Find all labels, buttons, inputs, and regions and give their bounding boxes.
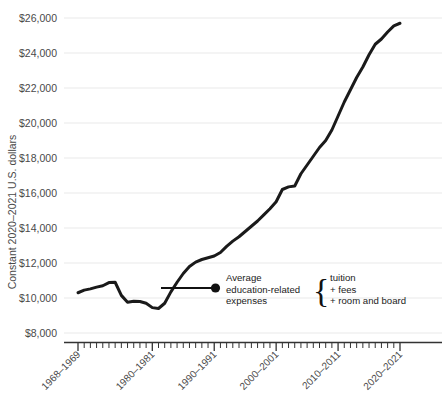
annotation-brace: { [313, 272, 329, 309]
x-axis-tick-label: 2010–2011 [300, 348, 343, 391]
annotation-component-tuition: tuition [330, 272, 356, 283]
expenses-line-series [78, 23, 400, 308]
x-axis-tick-label: 1980–1981 [114, 348, 157, 391]
y-axis-tick-label: $10,000 [19, 292, 57, 304]
annotation-component-fees: + fees [330, 284, 357, 295]
y-axis-tick-label: $22,000 [19, 82, 57, 94]
y-axis-tick-label: $16,000 [19, 187, 57, 199]
y-axis-tick-label: $12,000 [19, 257, 57, 269]
annotation-label-line1: Average [226, 272, 262, 283]
y-axis-title: Constant 2020–2021 U.S. dollars [6, 135, 18, 290]
y-axis-tick-label: $14,000 [19, 222, 57, 234]
x-axis-tick-label: 1990–1991 [175, 348, 218, 391]
y-axis-tick-label: $24,000 [19, 47, 57, 59]
y-axis-tick-label: $8,000 [25, 327, 57, 339]
annotation-marker-dot [211, 283, 220, 292]
x-axis-tick-label: 2020–2021 [361, 348, 404, 391]
annotation-component-room-and-board: + room and board [330, 295, 406, 306]
y-axis-tick-label: $26,000 [19, 12, 57, 24]
x-axis-tick-label: 2000–2001 [237, 348, 280, 391]
x-axis-tick-label: 1968–1969 [39, 348, 82, 391]
chart-container: $26,000$24,000$22,000$20,000$18,000$16,0… [0, 0, 446, 410]
annotation-label-line3: expenses [226, 295, 267, 306]
y-axis-tick-label: $20,000 [19, 117, 57, 129]
x-axis-ticks [78, 343, 400, 351]
line-chart: $26,000$24,000$22,000$20,000$18,000$16,0… [0, 0, 446, 410]
annotation-label-line2: education-related [226, 284, 300, 295]
x-axis-tick-labels: 1968–19691980–19811990–19912000–20012010… [39, 348, 404, 391]
y-axis-tick-label: $18,000 [19, 152, 57, 164]
y-axis-tick-labels: $26,000$24,000$22,000$20,000$18,000$16,0… [19, 12, 57, 339]
